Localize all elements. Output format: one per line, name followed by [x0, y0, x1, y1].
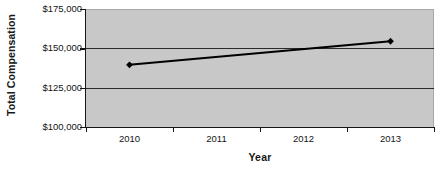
x-axis-tick-mark	[347, 127, 348, 132]
x-axis-tick-mark	[86, 127, 87, 132]
plot-right-border	[433, 9, 434, 127]
plot-area	[86, 9, 434, 127]
y-axis-tick-labels: $175,000$150,000$125,000$100,000	[20, 0, 82, 135]
y-axis-tick-mark	[80, 88, 86, 89]
y-axis-tick-label: $175,000	[20, 4, 82, 14]
x-axis-tick-label: 2010	[119, 133, 140, 144]
y-axis-title: Total Compensation	[0, 0, 22, 130]
x-axis-tick-label: 2013	[380, 133, 401, 144]
gridline	[86, 88, 434, 89]
x-axis-tick-label: 2011	[206, 133, 226, 144]
y-axis-tick-mark	[80, 9, 86, 10]
y-axis-tick-mark	[80, 48, 86, 49]
x-axis-title-label: Year	[249, 151, 272, 163]
x-axis-tick-mark	[260, 127, 261, 132]
x-axis-title: Year	[86, 151, 434, 163]
x-axis-tick-mark	[173, 127, 174, 132]
y-axis-tick-label: $125,000	[20, 83, 82, 93]
y-axis-tick-label: $100,000	[20, 122, 82, 132]
plot-top-border	[86, 9, 434, 10]
y-axis-tick-label: $150,000	[20, 43, 82, 53]
x-axis-tick-label: 2012	[293, 133, 314, 144]
line-chart: Total Compensation $175,000$150,000$125,…	[0, 0, 442, 175]
x-axis-tick-mark	[434, 127, 435, 132]
gridline	[86, 48, 434, 49]
y-axis-title-label: Total Compensation	[5, 14, 17, 116]
y-axis-line	[85, 9, 86, 128]
